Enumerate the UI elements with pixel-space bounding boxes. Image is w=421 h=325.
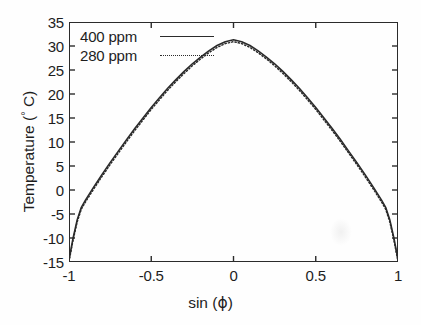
data-series-group [69, 40, 398, 262]
x-axis-tick-label: -0.5 [139, 268, 164, 283]
x-axis-title: sin (ϕ) [0, 294, 421, 312]
y-axis-tick-label: 35 [24, 15, 64, 30]
data-series-line [69, 40, 398, 260]
x-axis-tick-label: 0.5 [306, 268, 326, 283]
legend-label-280ppm: 280 ppm [80, 47, 156, 64]
legend-item-400ppm: 400 ppm [80, 27, 216, 46]
chart-legend: 400 ppm 280 ppm [80, 27, 216, 65]
x-axis-tick-label: 1 [394, 268, 402, 283]
x-axis-tick-label: -1 [63, 268, 76, 283]
y-axis-title: Temperature (° C) [19, 47, 38, 257]
legend-line-sample-dotted [160, 51, 214, 61]
x-axis-tick-labels: -1-0.500.51 [0, 268, 421, 290]
chart-figure: 35302520151050-5-10-15 Temperature (° C)… [0, 0, 421, 325]
x-axis-tick-label: 0 [229, 268, 237, 283]
legend-label-400ppm: 400 ppm [80, 28, 156, 45]
legend-item-280ppm: 280 ppm [80, 46, 216, 65]
legend-line-sample-solid [160, 32, 214, 42]
